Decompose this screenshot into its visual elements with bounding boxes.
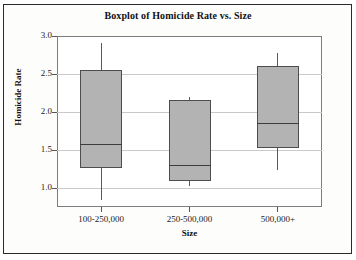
boxplot-screenshot: Boxplot of Homicide Rate vs. Size Homici… (0, 0, 356, 260)
plot-area (57, 36, 322, 207)
x-tick-mark (189, 207, 190, 212)
y-tick-label: 3.0 (26, 31, 52, 40)
x-tick-label-3: 500,000+ (223, 214, 333, 224)
box-1 (80, 70, 122, 168)
y-axis-title: Homicide Rate (13, 52, 23, 142)
x-tick-mark (101, 207, 102, 212)
x-tick-mark (277, 207, 278, 212)
y-tick-mark (52, 36, 57, 37)
whisker-lower (277, 148, 278, 170)
median-line-2 (169, 165, 211, 166)
y-tick-mark (52, 112, 57, 113)
x-axis-title: Size (57, 228, 322, 238)
chart-title: Boxplot of Homicide Rate vs. Size (0, 10, 356, 21)
y-tick-mark (52, 74, 57, 75)
median-line-3 (257, 123, 299, 124)
whisker-lower (189, 181, 190, 186)
median-line-1 (80, 144, 122, 145)
y-tick-mark (52, 188, 57, 189)
y-tick-label: 1.0 (26, 183, 52, 192)
gridline-y (57, 188, 322, 189)
y-tick-mark (52, 150, 57, 151)
whisker-lower (101, 168, 102, 200)
whisker-upper (101, 43, 102, 70)
y-tick-label: 2.5 (26, 69, 52, 78)
y-tick-label: 2.0 (26, 107, 52, 116)
y-tick-label: 1.5 (26, 145, 52, 154)
box-3 (257, 66, 299, 148)
whisker-upper (277, 53, 278, 66)
box-2 (169, 100, 211, 181)
